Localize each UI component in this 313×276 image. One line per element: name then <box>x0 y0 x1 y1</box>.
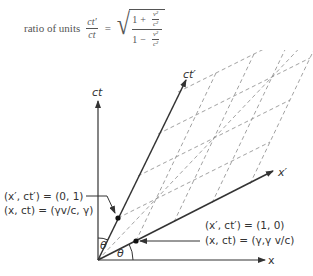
theta-arc-lower <box>129 244 133 260</box>
x-prime-axis-label: x′ <box>277 166 288 179</box>
point-x-prime-unit <box>133 238 138 243</box>
spacetime-diagram: ct x ct′ x′ θ θ (x′, ct′) = (0, 1) (x, c… <box>0 0 313 276</box>
ct-prime-axis-label: ct′ <box>183 68 196 81</box>
ct-prime-axis <box>98 80 186 260</box>
x-prime-axis <box>98 171 273 260</box>
x-axis-label: x <box>268 254 275 267</box>
theta-label-upper: θ <box>100 239 107 252</box>
annotation-x-prime-primed: (x′, ct′) = (1, 0) <box>205 219 284 231</box>
annotation-ct-prime-unprimed: (x, ct) = (γv/c, γ) <box>4 204 93 216</box>
theta-label-lower: θ <box>117 247 124 260</box>
annotation-ct-prime-primed: (x′, ct′) = (0, 1) <box>4 190 83 202</box>
annotation-x-prime-unprimed: (x, ct) = (γ,γ v/c) <box>205 234 294 246</box>
ct-axis-label: ct <box>92 86 103 99</box>
point-ct-prime-unit <box>115 215 120 220</box>
